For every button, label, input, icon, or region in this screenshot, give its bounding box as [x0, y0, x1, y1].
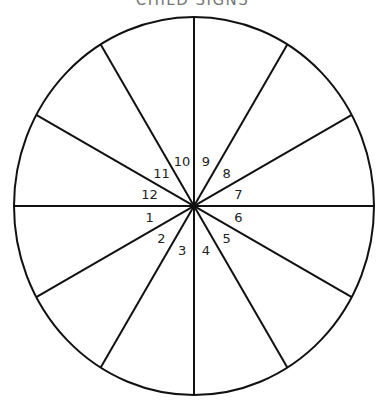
segment-label-7: 7: [234, 187, 242, 202]
segment-label-9: 9: [202, 154, 210, 169]
segment-label-6: 6: [234, 210, 242, 225]
segment-label-2: 2: [157, 231, 165, 246]
segment-label-11: 11: [153, 166, 170, 181]
segment-label-8: 8: [222, 166, 230, 181]
segment-label-4: 4: [202, 243, 210, 258]
sign-wheel: 123456789101112: [0, 0, 385, 410]
wheel-hub: [192, 204, 197, 209]
segment-label-1: 1: [145, 210, 153, 225]
segment-label-10: 10: [174, 154, 191, 169]
segment-label-5: 5: [222, 231, 230, 246]
segment-label-3: 3: [178, 243, 186, 258]
segment-label-12: 12: [141, 187, 158, 202]
